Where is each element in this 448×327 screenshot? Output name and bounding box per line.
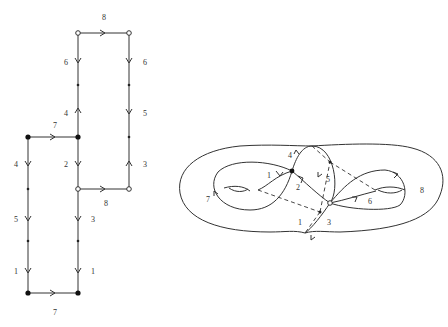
dual-edge-d: [330, 162, 375, 190]
label-1-left: 1: [14, 267, 18, 276]
label-1-center: 1: [91, 267, 95, 276]
left-gluing-diagram: 8 6 6 4 5 7 4 2 3 8 5 3 1 1 7: [14, 13, 147, 317]
label-2: 2: [296, 183, 300, 192]
label-4: 4: [288, 151, 292, 160]
label-4-left: 4: [14, 160, 18, 169]
genus-two-surface: 1 2 3 4 5 6 7 8 1: [180, 144, 443, 240]
vertex-open: [127, 31, 132, 36]
label-5-left: 5: [14, 215, 18, 224]
vertex-open: [76, 187, 81, 192]
vertex-filled: [75, 134, 80, 139]
dual-vertex: [329, 161, 332, 164]
label-6-right: 6: [143, 58, 147, 67]
vertex-filled: [290, 169, 295, 174]
label-5-right: 5: [143, 109, 147, 118]
vertex-open: [127, 187, 132, 192]
surface-arrow-glyphs: [214, 150, 398, 240]
label-6-left: 6: [64, 58, 68, 67]
dual-vertex: [319, 211, 322, 214]
edge-7-loop: [214, 162, 292, 210]
right-hole-top: [375, 187, 405, 190]
label-7: 7: [206, 195, 210, 204]
vertex-filled: [25, 290, 30, 295]
vertex-filled: [75, 290, 80, 295]
label-7-bottom: 7: [53, 308, 57, 317]
dual-edge-e: [305, 212, 320, 233]
label-3-right: 3: [143, 160, 147, 169]
label-4-center: 4: [64, 109, 68, 118]
label-1: 1: [267, 171, 271, 180]
label-7-upper: 7: [53, 121, 57, 130]
label-3: 3: [327, 218, 331, 227]
label-3-center: 3: [91, 215, 95, 224]
dual-edge-a: [258, 190, 320, 212]
label-8-top: 8: [102, 13, 106, 22]
label-5: 5: [326, 175, 330, 184]
label-6: 6: [368, 197, 372, 206]
label-8: 8: [420, 186, 424, 195]
edge-1: [258, 171, 292, 190]
label-2-center: 2: [64, 160, 68, 169]
diagram-canvas: 8 6 6 4 5 7 4 2 3 8 5 3 1 1 7: [0, 0, 448, 327]
right-hole-bottom: [378, 190, 402, 193]
vertex-open: [76, 31, 81, 36]
label-dual-1: 1: [298, 218, 302, 227]
label-8-lower: 8: [104, 199, 108, 208]
vertex-filled: [25, 134, 30, 139]
vertex-open: [328, 201, 333, 206]
